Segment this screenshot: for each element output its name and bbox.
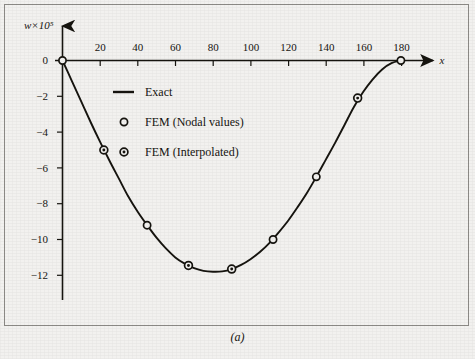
x-axis-ticks <box>100 61 401 67</box>
legend-label-exact: Exact <box>145 85 173 99</box>
x-tick-label: 80 <box>208 41 220 53</box>
x-tick-label: 180 <box>393 41 410 53</box>
x-tick-label: 100 <box>243 41 260 53</box>
y-axis-tick-labels: 0 −2 −4 −6 −8 −10 −12 <box>31 54 49 281</box>
chart-legend: Exact FEM (Nodal values) FEM (Interpolat… <box>113 85 244 159</box>
figure-caption: (a) <box>0 330 475 345</box>
y-tick-label: −8 <box>36 197 48 209</box>
fem-nodal-marker <box>59 57 66 64</box>
legend-label-interpolated: FEM (Interpolated) <box>145 145 239 159</box>
y-tick-label: −10 <box>31 233 49 245</box>
fem-nodal-marker <box>269 236 276 243</box>
legend-label-nodal: FEM (Nodal values) <box>145 115 244 129</box>
x-tick-label: 120 <box>280 41 297 53</box>
x-tick-label: 140 <box>318 41 335 53</box>
y-tick-label: −4 <box>36 126 48 138</box>
x-axis-tick-labels: 20 40 60 80 100 120 140 160 180 <box>95 41 411 53</box>
fem-nodal-marker <box>397 57 404 64</box>
fem-interpolated-marker-center <box>187 264 190 267</box>
chart-plot-area: 20 40 60 80 100 120 140 160 180 0 −2 −4 … <box>0 0 475 359</box>
legend-open-circle-icon <box>120 118 127 125</box>
x-tick-label: 160 <box>356 41 373 53</box>
figure-panel: 20 40 60 80 100 120 140 160 180 0 −2 −4 … <box>0 0 475 359</box>
fem-interpolated-marker-center <box>230 268 233 271</box>
fem-interpolated-marker-center <box>102 149 105 152</box>
y-axis-ticks <box>57 96 63 275</box>
y-tick-label: −2 <box>36 90 48 102</box>
y-tick-label: 0 <box>43 54 49 66</box>
x-tick-label: 20 <box>95 41 107 53</box>
fem-interpolated-marker-center <box>356 97 359 100</box>
legend-dotted-circle-center-icon <box>123 151 126 154</box>
y-tick-label: −6 <box>36 162 48 174</box>
x-tick-label: 40 <box>132 41 144 53</box>
x-axis-title: x <box>439 54 445 66</box>
fem-nodal-marker <box>313 173 320 180</box>
y-tick-label: −12 <box>31 269 48 281</box>
y-axis-title: w×10⁵ <box>24 19 54 31</box>
fem-nodal-marker <box>144 222 151 229</box>
x-tick-label: 60 <box>170 41 182 53</box>
